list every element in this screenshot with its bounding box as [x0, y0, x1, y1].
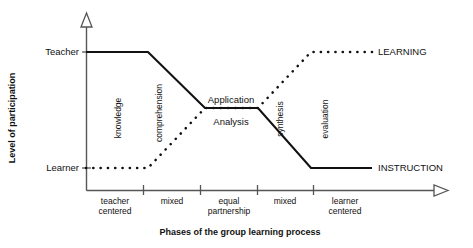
plot-label-comprehension: comprehension [155, 84, 165, 142]
plot-label-synthesis: synthesis [276, 101, 286, 136]
x-axis-title: Phases of the group learning process [159, 227, 320, 237]
x-tick-label-line2: centered [310, 207, 380, 217]
series-label-learning: LEARNING [378, 47, 427, 58]
x-tick-label-learner-centered: learner centered [310, 197, 380, 217]
series-label-instruction: INSTRUCTION [378, 163, 443, 174]
plot-label-knowledge: knowledge [114, 98, 124, 139]
y-axis-arrowhead [81, 13, 92, 27]
y-tick-label-learner: Learner [46, 163, 79, 174]
y-tick-label-teacher: Teacher [45, 47, 79, 58]
y-axis-title: Level of participation [7, 73, 17, 164]
plot-label-evaluation: evaluation [321, 100, 331, 139]
x-tick-label-line2: partnership [194, 207, 264, 217]
plot-label-application: Application [208, 95, 254, 106]
x-axis-arrowhead [434, 185, 448, 196]
x-tick-label-line2: centered [80, 207, 150, 217]
diagram-canvas: Level of participation Phases of the gro… [0, 0, 473, 248]
plot-label-analysis: Analysis [213, 117, 248, 128]
